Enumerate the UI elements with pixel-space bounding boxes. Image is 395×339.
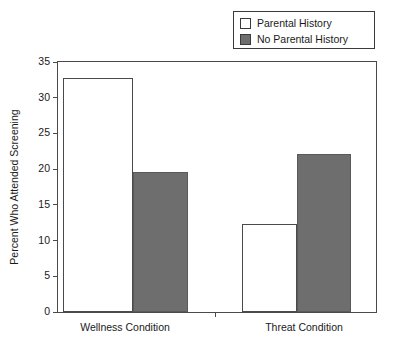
- y-axis-title: Percent Who Attended Screening: [8, 109, 20, 264]
- bar-wellness-no-parental-history: [133, 172, 188, 312]
- y-tick-line: [53, 312, 58, 313]
- y-tick-label: 15: [38, 198, 50, 211]
- y-tick-label: 30: [38, 91, 50, 104]
- plot-area: Percent Who Attended Screening 0 5 10 15…: [57, 61, 377, 313]
- legend-label-parental-history: Parental History: [257, 18, 332, 29]
- y-tick-line: [53, 97, 58, 98]
- y-tick-line: [53, 133, 58, 134]
- bar-threat-parental-history: [242, 224, 297, 312]
- legend-swatch-open-square-icon: [240, 18, 251, 29]
- y-tick-label: 20: [38, 162, 50, 175]
- y-tick-line: [53, 204, 58, 205]
- y-tick-line: [53, 169, 58, 170]
- bar-chart-figure: Parental History No Parental History Per…: [0, 0, 395, 339]
- y-tick-line: [53, 240, 58, 241]
- y-tick-label: 0: [44, 305, 50, 318]
- y-tick-line: [53, 276, 58, 277]
- y-tick-label: 35: [38, 55, 50, 68]
- x-axis-label-threat-condition: Threat Condition: [265, 321, 343, 334]
- bar-wellness-parental-history: [63, 78, 133, 312]
- bar-threat-no-parental-history: [297, 154, 351, 312]
- y-tick-label: 5: [44, 269, 50, 282]
- x-tick-group-separator: [215, 312, 216, 317]
- legend-swatch-filled-square-icon: [240, 34, 251, 45]
- y-tick-label: 25: [38, 126, 50, 139]
- legend-entry-no-parental-history: No Parental History: [240, 31, 369, 47]
- x-axis-label-wellness-condition: Wellness Condition: [80, 321, 170, 334]
- legend-label-no-parental-history: No Parental History: [257, 34, 348, 45]
- y-tick-label: 10: [38, 234, 50, 247]
- y-tick-line: [53, 62, 58, 63]
- chart-legend: Parental History No Parental History: [233, 11, 375, 49]
- legend-entry-parental-history: Parental History: [240, 15, 369, 31]
